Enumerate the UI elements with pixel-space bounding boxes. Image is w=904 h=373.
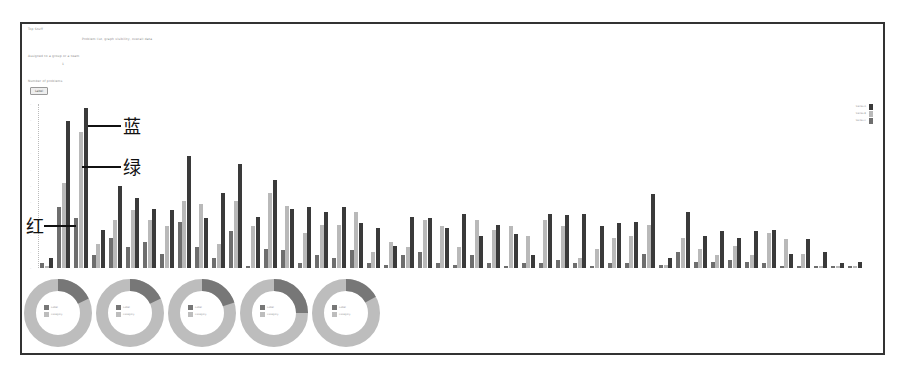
red-annotation-line: [44, 225, 76, 227]
bar-group: [504, 104, 518, 268]
bar-group: [762, 104, 776, 268]
bar: [681, 238, 685, 268]
y-tick: –: [30, 152, 31, 155]
bar: [612, 238, 616, 268]
bar-group: [625, 104, 639, 268]
bar-group: [436, 104, 450, 268]
green-annotation: 绿: [123, 153, 141, 179]
bar: [745, 262, 749, 268]
bar: [406, 247, 410, 268]
bar: [354, 212, 358, 268]
y-tick: –: [30, 218, 31, 221]
donut-legend-swatch: [188, 305, 193, 310]
bar: [367, 263, 371, 268]
y-tick: –: [30, 169, 31, 172]
bar: [556, 260, 560, 268]
bar: [526, 236, 530, 268]
bar: [831, 266, 835, 268]
bar: [780, 266, 784, 268]
bar-group: [298, 104, 312, 268]
legend-swatch: [869, 118, 873, 124]
bar: [600, 226, 604, 268]
bar: [762, 263, 766, 268]
bar: [256, 217, 260, 268]
bar: [148, 220, 152, 268]
bar: [126, 247, 130, 268]
subtitle: Problem list, graph visibility, overall …: [82, 37, 152, 41]
legend-item: Series B: [833, 111, 873, 118]
bar: [165, 226, 169, 268]
bar: [401, 255, 405, 268]
bar: [784, 239, 788, 268]
bar: [543, 220, 547, 268]
bar: [217, 244, 221, 268]
bar: [423, 220, 427, 268]
donut-chart: LabelCategory: [96, 279, 164, 347]
bar: [561, 226, 565, 268]
bar: [634, 222, 638, 268]
bar: [109, 238, 113, 268]
dashboard-frame: Top Stuff Problem list, graph visibility…: [20, 22, 885, 355]
bar-group: [487, 104, 501, 268]
bar: [686, 212, 690, 268]
bar: [642, 254, 646, 268]
bar-group: [814, 104, 828, 268]
bar: [264, 249, 268, 268]
bar: [246, 266, 250, 268]
donut-legend-swatch: [44, 305, 49, 310]
bar: [470, 255, 474, 268]
bar: [285, 206, 289, 268]
bar: [853, 266, 857, 268]
donut-legend-label: Category: [123, 313, 134, 316]
bar-group: [401, 104, 415, 268]
bar: [737, 238, 741, 268]
bar: [359, 223, 363, 268]
bar-group: [350, 104, 364, 268]
bar: [522, 263, 526, 268]
bar: [733, 246, 737, 268]
bar: [462, 214, 466, 268]
bar-group: [92, 104, 106, 268]
bar: [389, 242, 393, 268]
bar: [315, 255, 319, 268]
bar-group: [281, 104, 295, 268]
bar-group: [539, 104, 553, 268]
bar: [694, 262, 698, 268]
bar: [819, 266, 823, 268]
donut-chart: LabelCategory: [312, 279, 380, 347]
bar: [578, 258, 582, 268]
bar: [698, 249, 702, 268]
bar: [251, 226, 255, 268]
y-tick: –: [30, 103, 31, 106]
bar-group: [780, 104, 794, 268]
bar: [479, 236, 483, 268]
donut-legend-swatch: [188, 312, 193, 317]
bar-group: [160, 104, 174, 268]
bar: [238, 164, 242, 268]
bar-group: [109, 104, 123, 268]
bar: [212, 258, 216, 268]
assigned-label: Assigned to a group or a team: [28, 54, 79, 58]
bar-group: [711, 104, 725, 268]
y-tick: –: [30, 234, 31, 237]
label-button[interactable]: Label: [30, 87, 48, 95]
legend-swatch: [869, 111, 873, 117]
bar: [234, 201, 238, 268]
blue-annotation-line: [88, 125, 121, 127]
bar: [40, 263, 44, 268]
bar: [453, 265, 457, 268]
bar: [204, 218, 208, 268]
bar: [772, 230, 776, 268]
bar: [290, 209, 294, 268]
bar-group: [642, 104, 656, 268]
bar: [324, 212, 328, 268]
bar: [582, 214, 586, 268]
donut-legend-swatch: [260, 305, 265, 310]
donut-legend-label: Category: [267, 313, 278, 316]
bar: [509, 226, 513, 268]
bar-group: [212, 104, 226, 268]
bar: [436, 263, 440, 268]
bar: [187, 156, 191, 268]
bar: [393, 246, 397, 268]
bar: [848, 266, 852, 268]
